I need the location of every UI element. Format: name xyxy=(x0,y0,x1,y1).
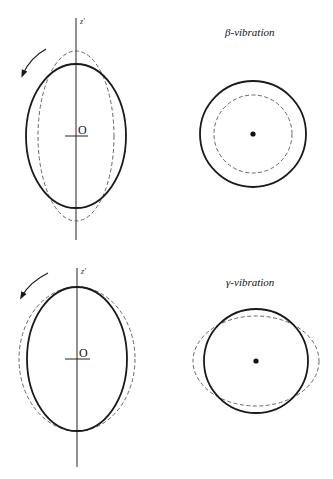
beta-top-view: β-vibration xyxy=(200,26,306,187)
vibration-diagram: z' O β-vibration z' O γ-vibrati xyxy=(0,0,333,479)
beta-title: β-vibration xyxy=(224,26,275,38)
beta-side-view: z' O xyxy=(23,17,126,240)
rotation-arrow-icon xyxy=(23,49,46,74)
center-dot xyxy=(250,131,255,136)
origin-label: O xyxy=(78,123,87,137)
gamma-panel: z' O γ-vibration xyxy=(19,267,319,467)
gamma-title: γ-vibration xyxy=(226,276,275,288)
beta-panel: z' O β-vibration xyxy=(23,17,306,240)
z-axis-label: z' xyxy=(80,267,86,276)
origin-label: O xyxy=(79,346,88,360)
rotation-arrow-icon xyxy=(22,273,48,296)
gamma-top-view: γ-vibration xyxy=(193,276,319,413)
center-dot xyxy=(253,358,258,363)
gamma-side-view: z' O xyxy=(19,267,135,467)
z-axis-label: z' xyxy=(79,17,85,26)
